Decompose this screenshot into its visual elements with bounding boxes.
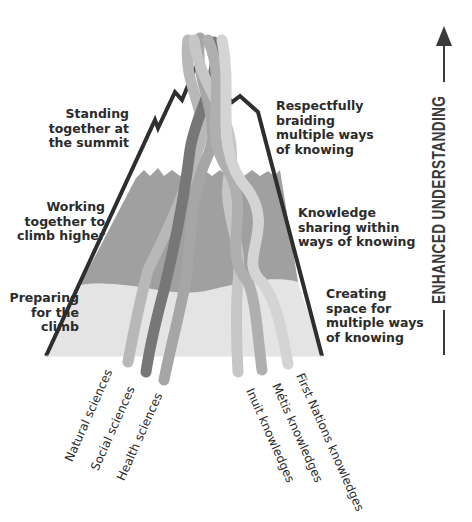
arrow-up-icon	[436, 26, 452, 46]
stage-label-creating-space: Creating space for multiple ways of know…	[326, 287, 424, 345]
stage-label-sharing: Knowledge sharing within ways of knowing	[298, 206, 415, 250]
stage-label-climb-higher: Working together to climb higher	[17, 200, 105, 244]
stage-label-summit: Standing together at the summit	[49, 107, 129, 151]
axis-label: ENHANCED UNDERSTANDING	[428, 96, 450, 304]
stage-label-braiding: Respectfully braiding multiple ways of k…	[276, 99, 374, 157]
stage-label-preparing: Preparing for the climb	[10, 291, 79, 335]
